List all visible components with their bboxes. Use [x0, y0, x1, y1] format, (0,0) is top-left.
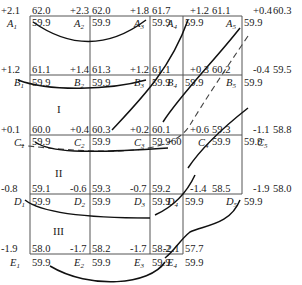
design-d2: 59.3: [92, 183, 110, 194]
zone-label-ii: II: [55, 167, 63, 179]
ground-c2: 59.9: [92, 136, 110, 147]
design-c2: 60.3: [92, 124, 110, 135]
point-label-a4: A4: [166, 18, 177, 31]
ground-e4: 59.9: [185, 257, 203, 268]
offset-d1: -0.8: [1, 183, 18, 194]
ground-b2: 59.9: [92, 77, 110, 88]
design-e1: 58.0: [32, 243, 50, 254]
point-label-b5: B5: [226, 77, 236, 90]
row-c-labels: +0.1 60.0 59.9 C1 +0.4 60.3 59.9 C2 +0.2…: [1, 124, 291, 150]
ground-a1: 59.9: [32, 17, 50, 28]
point-label-c2: C2: [74, 137, 85, 150]
design-a3: 61.7: [152, 5, 170, 16]
point-label-d2: D2: [73, 196, 86, 209]
point-label-a3: A3: [133, 18, 144, 31]
offset-e3: -1.7: [130, 243, 147, 254]
offset-a1: +2.1: [1, 5, 20, 16]
offset-b4: +0.3: [190, 64, 209, 75]
design-d5: 58.0: [273, 183, 291, 194]
point-label-e4: E4: [166, 257, 177, 270]
design-c1: 60.0: [32, 124, 50, 135]
point-label-a2: A2: [73, 18, 84, 31]
point-label-d1: D1: [13, 196, 25, 209]
design-b4: 60.2: [212, 64, 230, 75]
offset-d2: -0.6: [70, 183, 87, 194]
ground-e2: 59.9: [92, 257, 110, 268]
cut-fill-grid-diagram: +2.1 62.0 59.9 A1 +2.3 62.0 59.9 A2 +1.8…: [0, 0, 302, 285]
ground-d4: 59.9: [185, 196, 203, 207]
point-label-c1: C1: [14, 137, 25, 150]
design-a2: 62.0: [92, 5, 110, 16]
ground-d5: 59.9: [244, 196, 262, 207]
point-label-e2: E2: [73, 257, 84, 270]
offset-d4: -1.4: [190, 183, 207, 194]
ground-c1: 59.9: [32, 136, 50, 147]
ground-c3: 59.9: [152, 136, 170, 147]
row-d-labels: -0.8 59.1 59.9 D1 -0.6 59.3 59.9 D2 -0.7…: [1, 183, 291, 209]
ground-b1: 59.9: [32, 77, 50, 88]
offset-a2: +2.3: [70, 5, 89, 16]
row-e-labels: -1.9 58.0 59.9 E1 -1.7 58.2 59.9 E2 -1.7…: [1, 243, 203, 270]
design-b1: 61.1: [32, 64, 50, 75]
ground-d1: 59.9: [32, 196, 50, 207]
ground-a2: 59.9: [92, 17, 110, 28]
row-b-labels: +1.2 61.1 59.9 B1 +1.4 61.3 59.9 B2 +1.2…: [1, 64, 291, 90]
design-b2: 61.3: [92, 64, 110, 75]
design-c4: 59.3: [212, 124, 230, 135]
point-label-b3: B3: [134, 77, 144, 90]
point-label-d5: D5: [225, 196, 238, 209]
ground-a4: 59.9: [185, 17, 203, 28]
offset-d3: -0.7: [130, 183, 147, 194]
offset-c2: +0.4: [70, 124, 90, 135]
point-label-a5: A5: [225, 18, 236, 31]
zone-label-i: I: [57, 103, 61, 115]
row-a-labels: +2.1 62.0 59.9 A1 +2.3 62.0 59.9 A2 +1.8…: [1, 5, 291, 31]
point-label-b1: B1: [14, 77, 24, 90]
point-label-b4: B4: [167, 77, 177, 90]
offset-a3: +1.8: [130, 5, 149, 16]
zone-labels: I II III: [53, 103, 64, 237]
design-b5: 59.5: [273, 64, 291, 75]
offset-c3: +0.2: [130, 124, 149, 135]
offset-b3: +1.2: [130, 64, 149, 75]
design-a4: 61.1: [212, 5, 230, 16]
design-a5: 60.3: [273, 5, 291, 16]
zone-label-iii: III: [53, 225, 64, 237]
offset-a5: +0.4: [253, 5, 273, 16]
point-label-a1: A1: [6, 18, 17, 31]
ground-e1: 59.9: [32, 257, 50, 268]
ground-b4: 59.9: [185, 77, 203, 88]
design-a1: 62.0: [32, 5, 50, 16]
point-label-c3: C3: [134, 137, 145, 150]
design-d1: 59.1: [32, 183, 50, 194]
point-label-e1: E1: [9, 257, 20, 270]
ground-a5: 59.9: [244, 17, 262, 28]
offset-c4: +0.6: [190, 124, 209, 135]
design-d4: 58.5: [212, 183, 230, 194]
design-c3: 60.1: [152, 124, 170, 135]
offset-c5: -1.1: [253, 124, 270, 135]
offset-c1: +0.1: [1, 124, 20, 135]
ground-c4: 59.9: [212, 136, 230, 147]
offset-e2: -1.7: [70, 243, 87, 254]
offset-e4: -2.1: [163, 243, 180, 254]
offset-b2: +1.4: [70, 64, 90, 75]
offset-b5: -0.4: [253, 64, 270, 75]
design-e4: 57.7: [185, 243, 203, 254]
ground-b5: 59.9: [244, 77, 262, 88]
offset-d5: -1.9: [253, 183, 270, 194]
design-c5: 58.8: [273, 124, 291, 135]
offset-e1: -1.9: [1, 243, 18, 254]
zero-line-label: 60: [171, 136, 182, 147]
point-label-d3: D3: [133, 196, 146, 209]
ground-d2: 59.9: [92, 196, 110, 207]
design-d3: 59.2: [152, 183, 170, 194]
offset-a4: +1.2: [190, 5, 209, 16]
curve-b5-d3: [155, 175, 195, 215]
design-e2: 58.2: [92, 243, 110, 254]
point-label-e3: E3: [133, 257, 144, 270]
offset-b1: +1.2: [1, 64, 20, 75]
design-b3: 61.1: [152, 64, 170, 75]
point-label-c5: C5: [257, 137, 268, 150]
